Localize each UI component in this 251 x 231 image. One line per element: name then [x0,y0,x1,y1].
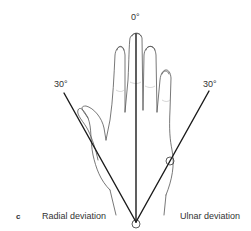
radial-line-30deg [64,93,136,222]
radial-deviation-caption: Radial deviation [42,211,106,221]
angle-lines [64,34,209,222]
panel-label: c [16,212,20,221]
hand-outline [78,33,173,215]
hand-diagram [0,0,251,231]
angle-label-radial: 30° [54,79,68,89]
angle-label-0: 0° [131,12,140,22]
ulnar-deviation-caption: Ulnar deviation [180,211,240,221]
angle-label-ulnar: 30° [203,79,217,89]
ulnar-line-30deg [136,91,209,222]
